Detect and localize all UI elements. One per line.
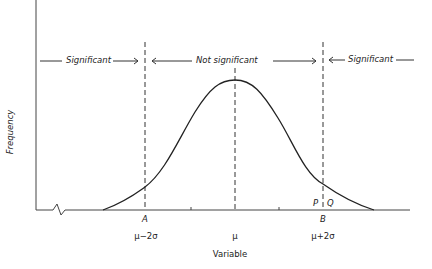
marker-p: P — [313, 198, 318, 208]
point-b-label: B — [320, 214, 326, 224]
tick-label-mu-minus-2sigma: μ−2σ — [134, 231, 157, 241]
diagram-canvas — [0, 0, 432, 269]
x-axis — [36, 204, 410, 215]
region-label-significant-right: Significant — [348, 54, 393, 64]
tick-label-mu: μ — [232, 231, 237, 241]
marker-q: Q — [327, 198, 334, 208]
region-label-not-significant: Not significant — [196, 55, 258, 65]
point-a-label: A — [142, 214, 148, 224]
x-axis-label: Variable — [213, 249, 247, 259]
y-axis-label: Frequency — [5, 110, 15, 155]
normal-curve — [103, 80, 374, 210]
tick-label-mu-plus-2sigma: μ+2σ — [311, 231, 334, 241]
region-label-significant-left: Significant — [66, 55, 111, 65]
